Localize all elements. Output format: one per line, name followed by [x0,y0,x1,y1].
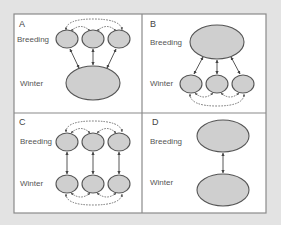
winter-node [56,175,78,193]
panel-letter: B [150,19,156,29]
breeding-label: Breeding [150,38,182,47]
breeding-node [108,30,130,48]
breeding-node [190,25,244,59]
winter-node [66,66,120,100]
winter-label: Winter [20,79,43,88]
breeding-label: Breeding [17,35,49,44]
breeding-node [197,120,249,152]
winter-node [82,175,104,193]
breeding-node [56,133,78,151]
winter-label: Winter [150,178,173,187]
winter-node [232,75,254,93]
breeding-label: Breeding [150,137,182,146]
winter-label: Winter [150,79,173,88]
breeding-node [56,30,78,48]
breeding-node [82,133,104,151]
winter-label: Winter [20,179,43,188]
breeding-label: Breeding [20,137,52,146]
winter-node [197,174,249,206]
panel-letter: D [152,117,159,127]
panel-letter: A [19,19,25,29]
winter-node [108,175,130,193]
breeding-node [82,30,104,48]
winter-node [180,75,202,93]
breeding-node [108,133,130,151]
winter-node [206,75,228,93]
panel-letter: C [19,117,26,127]
migratory-connectivity-diagram: A Breeding Winter B Breeding Winter C B [0,0,281,225]
